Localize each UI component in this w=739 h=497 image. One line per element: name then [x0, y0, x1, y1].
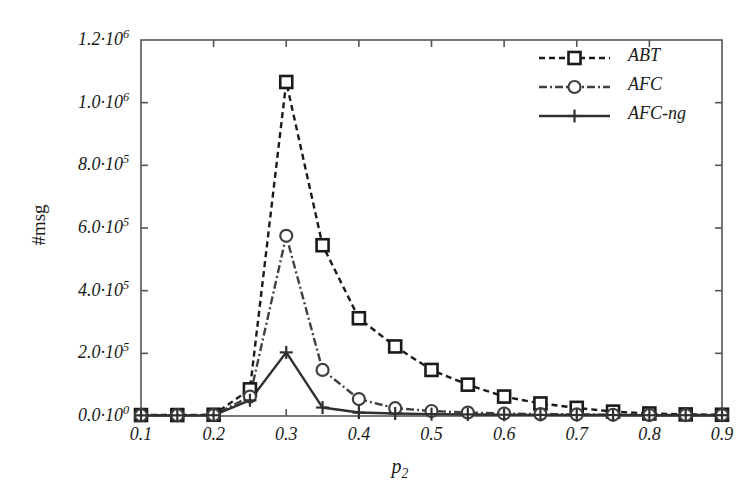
x-tick-label: 0.3 — [256, 424, 316, 445]
y-tick-label: 4.0·105 — [0, 278, 129, 301]
y-tick-mantissa: 4.0·10 — [78, 280, 123, 300]
y-tick-exponent: 5 — [123, 215, 129, 229]
x-axis-title-base: p — [392, 455, 402, 477]
y-tick-label: 1.2·106 — [0, 27, 129, 50]
x-tick-label: 0.8 — [619, 424, 679, 445]
axis-ticks — [141, 40, 722, 416]
y-tick-label: 2.0·105 — [0, 340, 129, 363]
y-axis-title-text: #msg — [28, 204, 49, 245]
y-tick-label: 8.0·105 — [0, 152, 129, 175]
plot-frame — [141, 40, 722, 416]
legend-item-abt[interactable]: ABT — [628, 45, 660, 66]
y-tick-label: 6.0·105 — [0, 215, 129, 238]
x-tick-label: 0.6 — [474, 424, 534, 445]
y-tick-mantissa: 1.2·10 — [78, 29, 123, 49]
y-tick-exponent: 0 — [123, 403, 129, 417]
data-series-group — [135, 76, 729, 422]
y-tick-mantissa: 0.0·10 — [78, 405, 123, 425]
y-tick-mantissa: 8.0·10 — [78, 154, 123, 174]
y-tick-mantissa: 2.0·10 — [78, 342, 123, 362]
y-tick-mantissa: 1.0·10 — [78, 92, 123, 112]
x-tick-label: 0.5 — [402, 424, 462, 445]
y-tick-label: 0.0·100 — [0, 403, 129, 426]
x-tick-label: 0.9 — [692, 424, 739, 445]
y-tick-exponent: 6 — [123, 27, 129, 41]
x-tick-label: 0.2 — [184, 424, 244, 445]
x-tick-label: 0.7 — [547, 424, 607, 445]
y-tick-exponent: 5 — [123, 340, 129, 354]
y-tick-exponent: 5 — [123, 278, 129, 292]
x-tick-label: 0.4 — [329, 424, 389, 445]
legend-item-afc-ng[interactable]: AFC-ng — [628, 103, 686, 124]
x-axis-title: p2 — [370, 455, 430, 482]
y-tick-label: 1.0·106 — [0, 90, 129, 113]
y-tick-exponent: 6 — [123, 90, 129, 104]
x-tick-label: 0.1 — [111, 424, 171, 445]
legend-item-afc[interactable]: AFC — [628, 74, 662, 95]
y-axis-title: #msg — [28, 180, 50, 270]
legend-glyphs — [539, 52, 610, 123]
chart-figure: 0.0·1002.0·1054.0·1056.0·1058.0·1051.0·1… — [0, 0, 739, 497]
y-tick-mantissa: 6.0·10 — [78, 217, 123, 237]
y-tick-exponent: 5 — [123, 152, 129, 166]
x-axis-title-sub: 2 — [402, 466, 409, 481]
